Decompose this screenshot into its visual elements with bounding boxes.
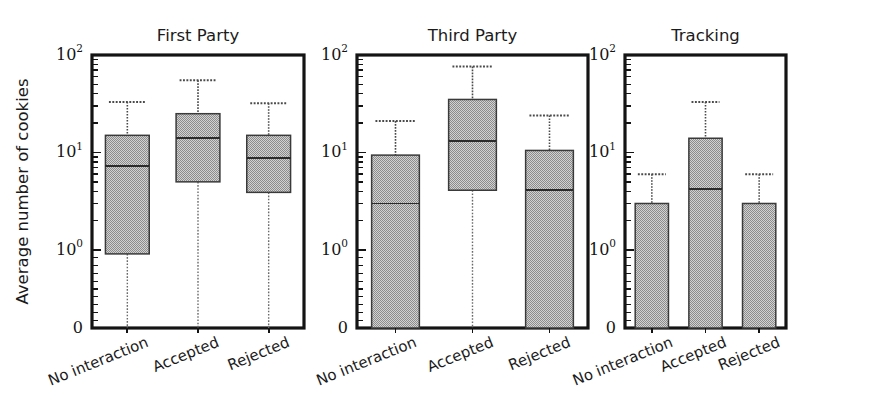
y-tick-label: 100 [56, 237, 83, 259]
box-iqr [372, 155, 420, 328]
panels-group: First Party1021011000No interactionAccep… [13, 26, 786, 390]
y-tick-label: 102 [589, 42, 616, 64]
y-tick-exponent: 0 [341, 237, 348, 249]
y-tick-exponent: 2 [76, 42, 83, 54]
x-axis-label: Rejected [225, 333, 292, 374]
y-tick-exponent: 1 [341, 140, 348, 152]
y-tick-label: 101 [589, 140, 616, 162]
box-iqr [176, 114, 220, 182]
y-tick-label: 0 [73, 318, 83, 337]
panel-1: First Party1021011000No interactionAccep… [46, 26, 304, 390]
y-tick-label: 101 [56, 140, 83, 162]
box-iqr [247, 135, 291, 192]
y-tick-label: 0 [606, 318, 616, 337]
box-iqr [105, 135, 149, 254]
x-axis-label: Accepted [424, 333, 496, 376]
y-tick-label: 102 [56, 42, 83, 64]
y-tick-label: 102 [321, 42, 348, 64]
x-axis-label: Rejected [506, 333, 573, 374]
x-axis-label: Rejected [715, 333, 782, 374]
panel-title: First Party [157, 26, 240, 45]
box-group: Rejected [506, 115, 574, 374]
y-tick-label: 100 [321, 237, 348, 259]
y-tick-exponent: 2 [609, 42, 616, 54]
box-iqr [689, 138, 722, 328]
x-axis-label: No interaction [46, 333, 151, 390]
box-iqr [526, 150, 574, 328]
y-axis-title: Average number of cookies [13, 79, 32, 305]
x-axis-label: Accepted [150, 333, 222, 376]
panel-title: Tracking [670, 26, 740, 45]
boxplot-figure: First Party1021011000No interactionAccep… [0, 0, 872, 414]
figure-container: First Party1021011000No interactionAccep… [0, 0, 872, 414]
panel-3: Tracking1021011000No interactionAccepted… [570, 26, 786, 390]
y-tick-exponent: 0 [609, 237, 616, 249]
x-axis-label: No interaction [314, 333, 419, 390]
box-iqr [449, 99, 497, 190]
box-group: No interaction [570, 174, 675, 389]
box-iqr [635, 203, 668, 328]
box-group: Accepted [150, 80, 222, 376]
box-group: Rejected [225, 103, 292, 374]
panel-2: Third Party1021011000No interactionAccep… [314, 26, 588, 390]
box-iqr [743, 203, 776, 328]
y-tick-label: 101 [321, 140, 348, 162]
y-tick-label: 0 [338, 318, 348, 337]
y-tick-label: 100 [589, 237, 616, 259]
panel-title: Third Party [427, 26, 518, 45]
y-tick-exponent: 2 [341, 42, 348, 54]
y-tick-exponent: 0 [76, 237, 83, 249]
y-tick-exponent: 1 [76, 140, 83, 152]
y-tick-exponent: 1 [609, 140, 616, 152]
